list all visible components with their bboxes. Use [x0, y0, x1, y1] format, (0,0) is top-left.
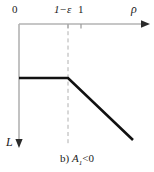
curve-path: [19, 78, 133, 140]
origin-label: 0: [12, 4, 18, 15]
figure-caption: b) A1<0: [0, 152, 154, 167]
figure-container: 0 1−ε 1 ρ L b) A1<0: [0, 0, 154, 172]
x-tick-label-one-minus-eps: 1−ε: [54, 4, 71, 15]
caption-relation: <0: [82, 152, 94, 164]
x-axis-label: ρ: [131, 3, 137, 15]
plot-area: [0, 0, 154, 172]
y-axis-label: L: [6, 136, 13, 148]
caption-symbol: A: [72, 152, 79, 164]
y-axis-arrow-icon: [15, 139, 22, 148]
x-axis-arrow-icon: [141, 20, 150, 28]
x-tick-label-one: 1: [78, 4, 84, 15]
caption-prefix: b): [60, 152, 69, 164]
